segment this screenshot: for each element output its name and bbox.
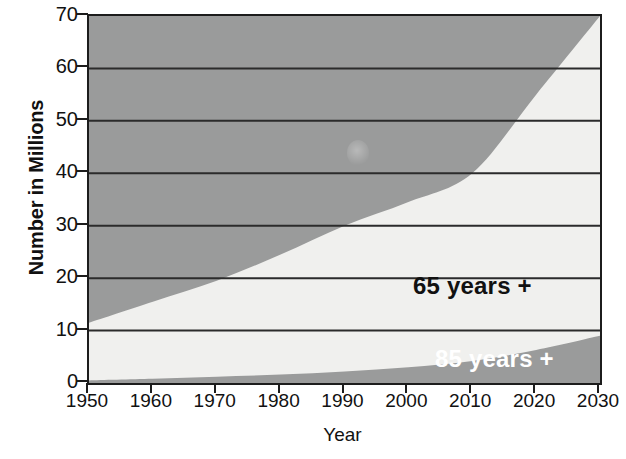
plot-svg xyxy=(89,16,600,383)
x-tick-label: 1960 xyxy=(116,390,186,412)
series-label-65-plus: 65 years + xyxy=(413,272,532,300)
y-tick-mark xyxy=(76,13,88,15)
x-tick-label: 2020 xyxy=(499,390,569,412)
y-tick-mark xyxy=(76,275,88,277)
y-tick-mark xyxy=(76,223,88,225)
y-tick-mark xyxy=(76,170,88,172)
x-tick-label: 1990 xyxy=(308,390,378,412)
y-tick-label: 20 xyxy=(22,265,78,288)
x-tick-label: 2010 xyxy=(435,390,505,412)
y-tick-label: 70 xyxy=(22,3,78,26)
y-tick-mark xyxy=(76,328,88,330)
y-tick-label: 10 xyxy=(22,317,78,340)
x-tick-mark xyxy=(150,383,152,393)
y-tick-mark xyxy=(76,65,88,67)
series-label-85-plus: 85 years + xyxy=(435,345,554,373)
x-tick-mark xyxy=(278,383,280,393)
x-tick-mark xyxy=(533,383,535,393)
x-tick-mark xyxy=(469,383,471,393)
x-tick-mark xyxy=(214,383,216,393)
x-tick-mark xyxy=(405,383,407,393)
x-tick-mark xyxy=(342,383,344,393)
y-tick-mark xyxy=(76,380,88,382)
x-axis-tick-labels: 195019601970198019902000201020202030 xyxy=(0,390,626,418)
x-axis-title: Year xyxy=(87,424,598,446)
y-tick-label: 40 xyxy=(22,160,78,183)
x-tick-mark xyxy=(86,383,88,393)
x-tick-label: 1980 xyxy=(244,390,314,412)
x-tick-label: 2000 xyxy=(371,390,441,412)
y-tick-label: 30 xyxy=(22,212,78,235)
y-tick-mark xyxy=(76,118,88,120)
y-tick-label: 60 xyxy=(22,55,78,78)
area-series-group xyxy=(89,16,600,383)
x-tick-label: 1950 xyxy=(52,390,122,412)
y-tick-label: 50 xyxy=(22,107,78,130)
x-tick-label: 2030 xyxy=(563,390,626,412)
x-tick-label: 1970 xyxy=(180,390,250,412)
plot-area xyxy=(87,14,602,385)
x-tick-mark xyxy=(597,383,599,393)
chart-figure: Number in Millions 010203040506070 65 ye… xyxy=(0,0,626,459)
area-65-plus xyxy=(89,16,600,383)
